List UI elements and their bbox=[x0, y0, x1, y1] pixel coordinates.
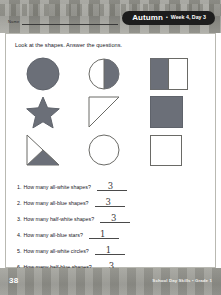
question-text-1: How many all-white shapes? bbox=[23, 184, 90, 192]
answer-line-2 bbox=[95, 206, 125, 207]
question-text-3: How many half-white shapes? bbox=[23, 216, 94, 224]
name-label: Name bbox=[8, 19, 19, 25]
banner-season-label: Autumn bbox=[132, 14, 163, 22]
all-white-circle bbox=[81, 131, 143, 169]
question-number-5: 5. bbox=[17, 248, 21, 256]
instruction-text: Look at the shapes. Answer the questions… bbox=[15, 42, 122, 48]
question-number-3: 3. bbox=[17, 216, 21, 224]
half-blue-triangle bbox=[19, 131, 81, 169]
shape-row bbox=[19, 55, 205, 93]
answer-field-2[interactable]: 3 bbox=[95, 196, 125, 207]
answer-field-5[interactable]: 1 bbox=[95, 244, 125, 255]
question-row-3: 3. How many half-white shapes? 3 bbox=[17, 207, 209, 223]
page-number: 38 bbox=[9, 276, 19, 285]
banner-separator-icon: • bbox=[166, 15, 168, 21]
question-number-4: 4. bbox=[17, 232, 21, 240]
question-text-4: How many all-blue stars? bbox=[23, 232, 82, 240]
shape-grid bbox=[19, 55, 205, 169]
answer-line-3 bbox=[100, 222, 130, 223]
all-white-square bbox=[143, 131, 205, 169]
question-text-5: How many all-white circles? bbox=[23, 248, 88, 256]
half-blue-rectangle bbox=[143, 55, 205, 93]
answer-field-1[interactable]: 3 bbox=[97, 180, 127, 191]
answer-field-3[interactable]: 3 bbox=[100, 212, 130, 223]
shape-row bbox=[19, 93, 205, 131]
answer-line-5 bbox=[95, 254, 125, 255]
all-white-triangle bbox=[81, 93, 143, 131]
page-footer: 38 School Day Skills • Grade 1 bbox=[0, 268, 221, 295]
name-write-line[interactable] bbox=[22, 16, 118, 25]
title-banner: Autumn • Week 4, Day 3 bbox=[122, 11, 215, 25]
question-row-5: 5. How many all-white circles? 1 bbox=[17, 239, 209, 255]
worksheet-page: Name Autumn • Week 4, Day 3 Look at the … bbox=[0, 0, 221, 295]
shape-row bbox=[19, 131, 205, 169]
footer-credit-label: School Day Skills • Grade 1 bbox=[152, 278, 212, 283]
answer-line-4 bbox=[89, 238, 119, 239]
question-row-1: 1. How many all-white shapes? 3 bbox=[17, 175, 209, 191]
question-row-4: 4. How many all-blue stars? 1 bbox=[17, 223, 209, 239]
answer-field-4[interactable]: 1 bbox=[89, 228, 119, 239]
question-number-1: 1. bbox=[17, 184, 21, 192]
worksheet-body: Look at the shapes. Answer the questions… bbox=[5, 33, 216, 268]
question-row-2: 2. How many all-blue shapes? 3 bbox=[17, 191, 209, 207]
answer-line-1 bbox=[97, 190, 127, 191]
half-blue-circle bbox=[81, 55, 143, 93]
all-blue-star bbox=[19, 93, 81, 131]
name-field-row[interactable]: Name bbox=[8, 13, 118, 25]
question-number-2: 2. bbox=[17, 200, 21, 208]
all-blue-circle bbox=[19, 55, 81, 93]
banner-week-day-label: Week 4, Day 3 bbox=[171, 15, 206, 20]
question-text-2: How many all-blue shapes? bbox=[23, 200, 88, 208]
all-blue-square bbox=[143, 93, 205, 131]
questions-list: 1. How many all-white shapes? 3 2. How m… bbox=[17, 175, 209, 271]
